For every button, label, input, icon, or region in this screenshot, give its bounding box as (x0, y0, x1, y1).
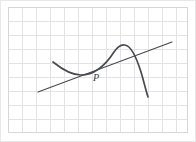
geometry-figure-svg: P (0, 0, 196, 142)
figure-container: P (0, 0, 196, 142)
point-p-label: P (92, 72, 99, 83)
